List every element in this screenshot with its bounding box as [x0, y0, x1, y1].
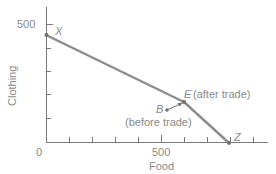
point-b [165, 108, 169, 112]
x-tick-label-500: 500 [152, 146, 170, 158]
point-e [182, 100, 186, 104]
y-axis-label: Clothing [6, 66, 18, 106]
label-e-note: (after trade) [193, 88, 250, 100]
label-b-note: (before trade) [125, 116, 192, 128]
point-x [45, 33, 49, 37]
y-tick-label-500: 500 [17, 18, 35, 30]
arrowhead-icon [178, 103, 184, 107]
point-z [227, 141, 231, 145]
arrow-b-to-e [168, 104, 180, 110]
origin-label: 0 [36, 146, 42, 158]
label-x: X [54, 25, 63, 37]
chart: 500 0 500 Food Clothing X E (after trade… [0, 0, 276, 174]
label-z: Z [233, 131, 242, 143]
x-axis-label: Food [149, 160, 174, 172]
label-e: E [184, 88, 192, 100]
label-b: B [156, 103, 163, 115]
